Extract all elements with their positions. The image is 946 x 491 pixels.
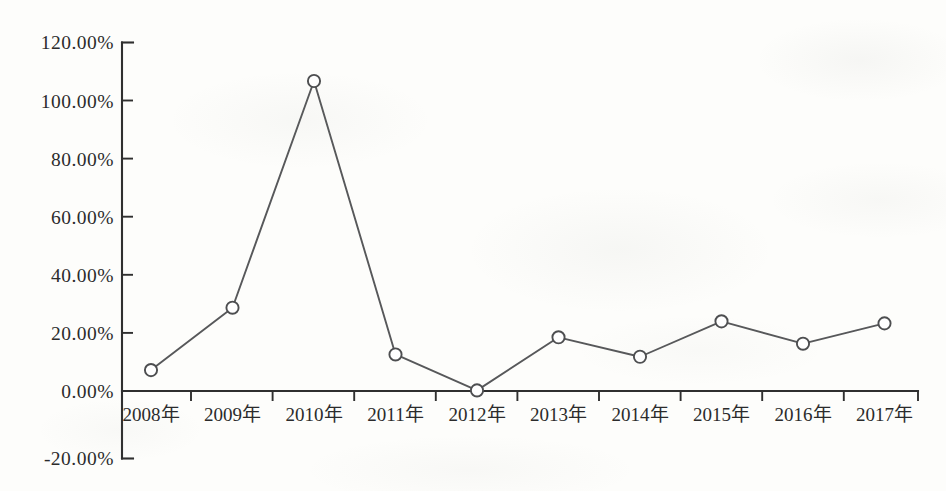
data-point-marker[interactable] [226, 302, 238, 314]
y-tick-label-120: 120.00% [41, 32, 114, 53]
x-tick-marks [191, 391, 918, 401]
y-tick-label-0: 0.00% [61, 381, 114, 402]
x-axis [122, 391, 918, 401]
y-tick-label-20: 20.00% [51, 323, 114, 344]
data-point-marker[interactable] [145, 364, 157, 376]
series-markers [145, 75, 891, 397]
chart-canvas: 120.00% 100.00% 80.00% 60.00% 40.00% 20.… [0, 0, 946, 491]
x-tick-label-2014: 2014年 [612, 404, 669, 425]
x-tick-label-2017: 2017年 [856, 404, 913, 425]
data-series-growth-rate [145, 75, 891, 397]
y-tick-label-neg20: -20.00% [44, 448, 114, 469]
y-tick-label-80: 80.00% [51, 149, 114, 170]
data-point-marker[interactable] [471, 384, 483, 396]
x-tick-label-2009: 2009年 [204, 404, 261, 425]
y-axis [122, 43, 133, 459]
x-tick-label-2013: 2013年 [530, 404, 587, 425]
x-tick-label-2015: 2015年 [693, 404, 750, 425]
data-point-marker[interactable] [715, 315, 727, 327]
data-point-marker[interactable] [389, 348, 401, 360]
y-tick-label-100: 100.00% [41, 91, 114, 112]
line-chart: 120.00% 100.00% 80.00% 60.00% 40.00% 20.… [0, 0, 946, 491]
data-point-marker[interactable] [552, 331, 564, 343]
data-point-marker[interactable] [634, 351, 646, 363]
y-tick-label-60: 60.00% [51, 207, 114, 228]
y-tick-labels: 120.00% 100.00% 80.00% 60.00% 40.00% 20.… [41, 32, 114, 469]
x-tick-label-2008: 2008年 [123, 404, 180, 425]
data-point-marker[interactable] [878, 317, 890, 329]
y-tick-marks [122, 101, 133, 333]
x-tick-label-2011: 2011年 [367, 404, 423, 425]
x-tick-labels: 2008年 2009年 2010年 2011年 2012年 2013年 2014… [123, 404, 914, 425]
y-tick-label-40: 40.00% [51, 265, 114, 286]
data-point-marker[interactable] [308, 75, 320, 87]
series-line [151, 81, 885, 390]
x-tick-label-2010: 2010年 [286, 404, 343, 425]
data-point-marker[interactable] [797, 338, 809, 350]
x-tick-label-2016: 2016年 [775, 404, 832, 425]
x-tick-label-2012: 2012年 [449, 404, 506, 425]
